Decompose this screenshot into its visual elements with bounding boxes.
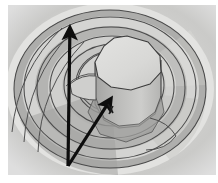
margin-bottom <box>0 175 218 183</box>
margin-right <box>216 0 218 183</box>
contour-figure-svg <box>0 0 218 183</box>
vertical-arrow-annotation-icon <box>68 28 70 166</box>
margin-left <box>0 0 8 183</box>
margin-top <box>0 0 218 5</box>
figure-container: Shaded grayscale diagram showing nested … <box>0 0 218 183</box>
